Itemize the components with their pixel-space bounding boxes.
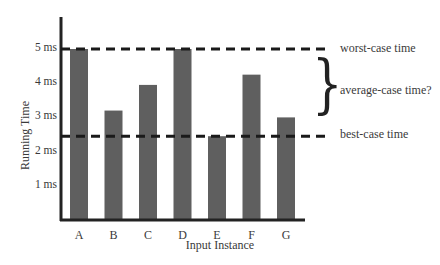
best-case-label: best-case time <box>340 127 408 142</box>
bar-B <box>105 111 123 220</box>
bar-D <box>174 49 192 220</box>
x-tick-label: D <box>173 228 193 243</box>
x-tick-label: B <box>104 228 124 243</box>
bar-F <box>243 75 261 220</box>
average-case-label: average-case time? <box>340 83 432 98</box>
x-tick-label: E <box>207 228 227 243</box>
y-tick-label: 1 ms <box>17 178 57 190</box>
y-tick-label: 2 ms <box>17 144 57 156</box>
x-tick-label: F <box>242 228 262 243</box>
worst-case-label: worst-case time <box>340 41 416 56</box>
chart: Running Time Input Instance 1 ms2 ms3 ms… <box>0 0 440 265</box>
x-tick-label: C <box>138 228 158 243</box>
bar-E <box>208 136 226 220</box>
bar-G <box>277 117 295 220</box>
y-tick-label: 5 ms <box>17 41 57 53</box>
brace-icon: } <box>312 52 343 116</box>
bar-A <box>70 49 88 220</box>
y-tick-label: 4 ms <box>17 75 57 87</box>
bar-C <box>139 85 157 220</box>
x-tick-label: A <box>69 228 89 243</box>
x-tick-label: G <box>276 228 296 243</box>
y-axis-label: Running Time <box>18 91 33 181</box>
y-tick-label: 3 ms <box>17 109 57 121</box>
